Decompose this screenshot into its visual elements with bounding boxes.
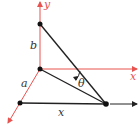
hypotenuse-origin [40,69,106,104]
a-label: a [21,77,28,90]
x-base-label: x [58,106,65,119]
point-b [38,22,43,27]
hypotenuse-b [40,24,106,104]
theta-label: θ [78,77,85,90]
point-a [18,101,23,106]
y-axis-label: y [43,0,51,11]
b-label: b [30,39,37,52]
geometry-diagram: y x b a x θ [0,0,140,126]
point-origin [38,67,43,72]
base-line [20,103,106,104]
x-axis-label: x [130,70,137,83]
point-end [103,101,109,107]
